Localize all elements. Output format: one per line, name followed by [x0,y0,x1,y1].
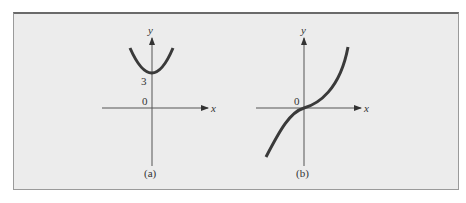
origin-label: 0 [294,95,300,107]
panel-caption: (a) [144,167,157,180]
cubic-curve [266,47,348,157]
x-axis-label: x [210,102,216,114]
figure-svg: y x 0 3 (a) y x 0 (b) [0,0,466,203]
panel-a: y x 0 3 (a) [102,24,216,180]
panel-b: y x 0 (b) [256,24,369,180]
y-intercept-label: 3 [141,75,147,87]
panel-caption: (b) [296,167,309,180]
x-axis-label: x [363,102,369,114]
y-axis-label: y [147,24,153,36]
y-axis-label: y [300,24,306,36]
origin-label: 0 [142,95,148,107]
